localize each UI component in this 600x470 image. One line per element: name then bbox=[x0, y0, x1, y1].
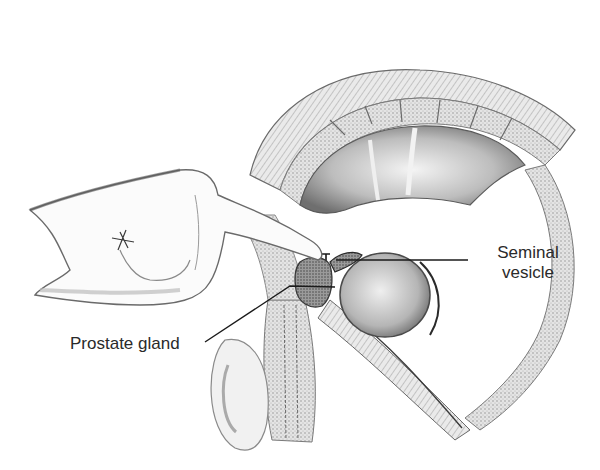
seminal-vesicle-label: Seminal vesicle bbox=[488, 243, 568, 283]
bladder bbox=[340, 253, 430, 337]
anatomy-illustration bbox=[0, 0, 600, 470]
rectum-wall bbox=[465, 165, 574, 430]
penis-shaft bbox=[264, 300, 315, 442]
seminal-vesicle-label-line2: vesicle bbox=[488, 263, 568, 283]
scrotum bbox=[211, 339, 268, 450]
prostate-gland-label: Prostate gland bbox=[70, 334, 180, 354]
seminal-vesicle-label-line1: Seminal bbox=[488, 243, 568, 263]
prostate-gland bbox=[295, 257, 332, 307]
